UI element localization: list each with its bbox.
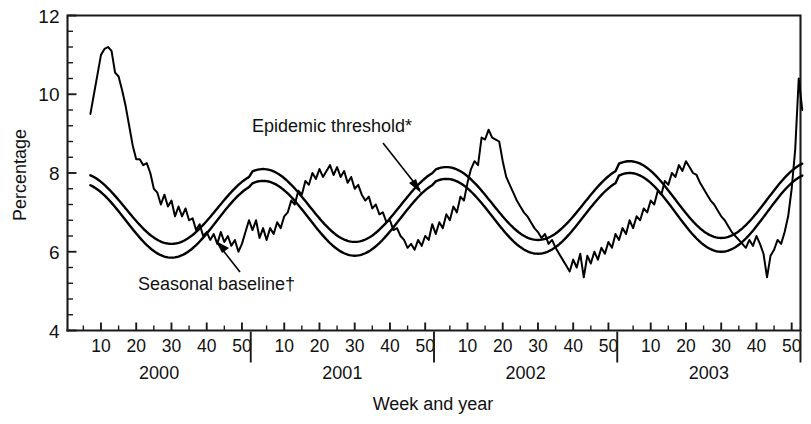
x-tick-label: 30 [162, 336, 182, 356]
x-tick-label: 30 [345, 336, 365, 356]
x-tick-label: 20 [493, 336, 513, 356]
x-tick-label: 50 [782, 336, 802, 356]
chart-svg: 4681012 10203040501020304050102030405010… [0, 0, 811, 424]
year-label: 2003 [689, 363, 729, 383]
seasonal-baseline-arrow-head [216, 241, 229, 253]
data-series-group [90, 47, 802, 277]
x-tick-label: 20 [676, 336, 696, 356]
y-tick-label: 4 [49, 321, 60, 342]
annotation-epidemic-threshold: Epidemic threshold* [252, 116, 421, 193]
x-tick-label: 20 [126, 336, 146, 356]
x-tick-label: 10 [274, 336, 294, 356]
x-tick-label: 30 [528, 336, 548, 356]
y-tick-label: 8 [49, 163, 60, 184]
x-tick-label: 10 [458, 336, 478, 356]
x-axis-tick-labels: 1020304050102030405010203040501020304050 [91, 336, 801, 356]
epidemic-threshold-label: Epidemic threshold* [252, 116, 412, 136]
y-tick-label: 10 [38, 84, 59, 105]
x-tick-label: 40 [197, 336, 217, 356]
y-tick-label: 12 [38, 6, 59, 27]
year-label: 2000 [139, 363, 179, 383]
x-tick-label: 30 [711, 336, 731, 356]
x-tick-label: 50 [599, 336, 619, 356]
epidemic-threshold-arrow-head [409, 179, 421, 193]
x-tick-label: 40 [563, 336, 583, 356]
annotation-seasonal-baseline: Seasonal baseline† [138, 241, 295, 294]
y-axis-tick-labels: 4681012 [38, 6, 60, 342]
y-axis-title: Percentage [10, 129, 30, 221]
y-axis-ticks [68, 16, 77, 331]
seasonal-baseline-label: Seasonal baseline† [138, 274, 295, 294]
x-tick-label: 20 [310, 336, 330, 356]
year-label: 2002 [506, 363, 546, 383]
x-axis-ticks [83, 323, 791, 331]
x-tick-label: 50 [232, 336, 252, 356]
x-tick-label: 10 [91, 336, 111, 356]
pneumonia-influenza-mortality-chart: 4681012 10203040501020304050102030405010… [0, 0, 811, 424]
x-tick-label: 50 [415, 336, 435, 356]
x-tick-label: 40 [747, 336, 767, 356]
x-tick-label: 40 [380, 336, 400, 356]
y-tick-label: 6 [49, 242, 60, 263]
x-tick-label: 10 [641, 336, 661, 356]
year-labels: 2000200120022003 [139, 363, 729, 383]
year-label: 2001 [322, 363, 362, 383]
x-axis-title: Week and year [373, 394, 494, 414]
